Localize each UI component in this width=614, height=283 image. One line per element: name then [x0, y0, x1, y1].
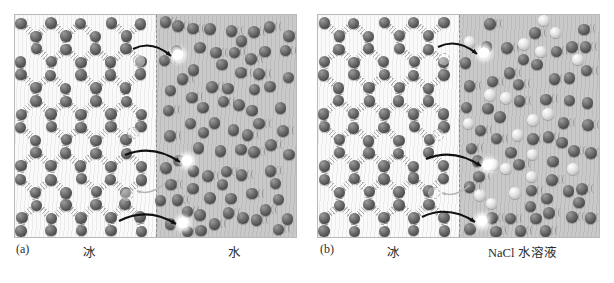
- panel-a-frame: [14, 14, 297, 238]
- panel-b-left-label: 冰: [387, 242, 400, 261]
- panel-a-left-label: 冰: [83, 242, 96, 261]
- panel-b-frame: [317, 14, 600, 238]
- panel-a-index-label: (a): [16, 242, 29, 257]
- return-arrow: [15, 15, 296, 237]
- panel-a-right-label: 水: [228, 242, 241, 261]
- panel-b-right-label: NaCl 水溶液: [488, 242, 557, 261]
- caption-row: (a) 冰 水 (b) 冰 NaCl 水溶液: [0, 242, 614, 272]
- panel-a: [14, 14, 297, 238]
- figure-ice-water-interface: (a) 冰 水 (b) 冰 NaCl 水溶液: [0, 0, 614, 283]
- return-arrow: [318, 15, 599, 237]
- panel-b-index-label: (b): [320, 242, 334, 257]
- panel-b: [317, 14, 600, 238]
